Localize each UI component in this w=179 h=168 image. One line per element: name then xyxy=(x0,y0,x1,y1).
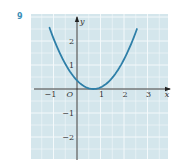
origin-label: O xyxy=(66,90,73,99)
parabola-graph: −112321−1−2Oxy xyxy=(0,0,179,168)
y-tick-label: −2 xyxy=(62,133,74,142)
x-tick-label: 3 xyxy=(146,90,151,99)
y-tick-label: −1 xyxy=(62,109,74,118)
x-tick-label: −1 xyxy=(45,90,57,99)
y-axis-label: y xyxy=(79,17,85,26)
x-tick-label: 2 xyxy=(122,90,127,99)
y-tick-label: 2 xyxy=(69,37,74,46)
y-tick-label: 1 xyxy=(69,61,74,70)
x-tick-label: 1 xyxy=(99,90,104,99)
x-axis-label: x xyxy=(165,90,170,99)
